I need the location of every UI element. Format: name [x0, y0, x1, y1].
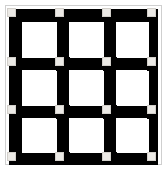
grid-cell — [70, 119, 104, 153]
lattice-figure — [0, 0, 167, 170]
intersection-node — [102, 8, 111, 17]
lattice-grid — [0, 0, 167, 170]
grid-cell — [70, 22, 104, 58]
intersection-node — [147, 105, 156, 114]
horizontal-bar — [9, 9, 158, 22]
horizontal-bar — [9, 57, 158, 70]
intersection-node — [7, 57, 16, 66]
intersection-node — [102, 57, 111, 66]
intersection-node — [55, 152, 64, 161]
intersection-node — [102, 152, 111, 161]
intersection-node — [147, 152, 156, 161]
vertical-bar — [103, 9, 116, 165]
grid-cell — [22, 71, 57, 106]
grid-cell — [117, 119, 149, 153]
intersection-node — [55, 57, 64, 66]
intersection-node — [55, 8, 64, 17]
intersection-node — [7, 152, 16, 161]
intersection-node — [147, 8, 156, 17]
intersection-node — [7, 105, 16, 114]
grid-cell — [22, 22, 57, 58]
intersection-node — [55, 105, 64, 114]
intersection-node — [102, 105, 111, 114]
vertical-bar — [56, 9, 69, 165]
intersection-node — [147, 57, 156, 66]
horizontal-bar — [9, 105, 158, 118]
grid-cell — [70, 71, 104, 106]
grid-cell — [22, 119, 57, 153]
horizontal-bar — [9, 152, 158, 165]
grid-cell — [117, 22, 149, 58]
intersection-node — [7, 8, 16, 17]
grid-cell — [117, 71, 149, 106]
vertical-bar — [9, 9, 22, 165]
